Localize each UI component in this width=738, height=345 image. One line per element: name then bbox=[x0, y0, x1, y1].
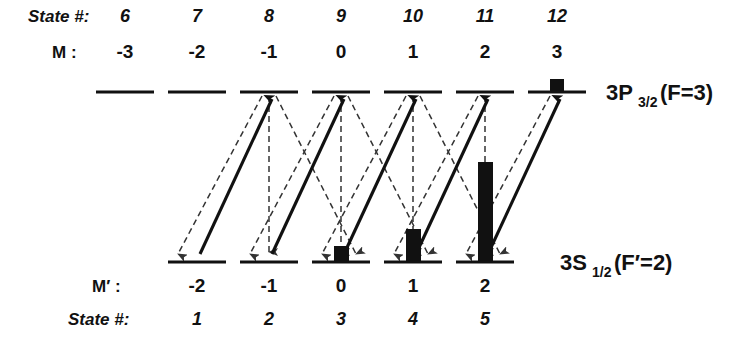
upper-term-subscript: 3/2 bbox=[638, 94, 658, 110]
bottom-state-row-label: State #: bbox=[68, 310, 129, 329]
pump-arrow-3-to-10 bbox=[344, 99, 416, 254]
m-prime-value-minus2: -2 bbox=[189, 275, 206, 296]
top-m-row-label: M : bbox=[52, 43, 77, 62]
population-marker-state-12 bbox=[550, 79, 564, 92]
bottom-m-row: M′ : -2 -1 0 1 2 bbox=[92, 275, 490, 296]
lower-term-subscript: 1/2 bbox=[592, 264, 612, 280]
lower-term-main: 3S bbox=[560, 250, 587, 275]
population-bar-state-3 bbox=[334, 246, 349, 262]
m-value-minus2: -2 bbox=[189, 41, 206, 62]
bottom-m-row-label: M′ : bbox=[92, 277, 121, 296]
m-value-minus3: -3 bbox=[117, 41, 134, 62]
m-value-3: 3 bbox=[552, 41, 563, 62]
m-value-1: 1 bbox=[408, 41, 419, 62]
state-number-4: 4 bbox=[407, 309, 418, 329]
m-value-minus1: -1 bbox=[261, 41, 278, 62]
m-prime-value-minus1: -1 bbox=[261, 275, 278, 296]
lower-term-tail: (F′=2) bbox=[614, 250, 672, 275]
m-prime-value-2: 2 bbox=[480, 275, 491, 296]
m-value-2: 2 bbox=[480, 41, 491, 62]
top-state-number-row: State #: 6 7 8 9 10 11 12 bbox=[28, 6, 567, 26]
state-number-5: 5 bbox=[480, 309, 491, 329]
pump-arrow-5-to-12 bbox=[488, 99, 560, 254]
state-number-12: 12 bbox=[547, 6, 567, 26]
upper-term-symbol: 3P 3/2 (F=3) bbox=[606, 80, 713, 110]
population-bar-state-5 bbox=[478, 162, 493, 262]
lower-term-symbol: 3S 1/2 (F′=2) bbox=[560, 250, 672, 280]
state-number-6: 6 bbox=[120, 6, 131, 26]
upper-term-main: 3P bbox=[606, 80, 633, 105]
state-number-3: 3 bbox=[336, 309, 346, 329]
pump-arrow-1-to-8 bbox=[200, 99, 272, 254]
state-number-7: 7 bbox=[192, 6, 203, 26]
m-value-0: 0 bbox=[336, 41, 347, 62]
pump-arrow-4-to-11 bbox=[416, 99, 488, 254]
state-number-9: 9 bbox=[336, 6, 346, 26]
bottom-state-number-row: State #: 1 2 3 4 5 bbox=[68, 309, 491, 329]
energy-level-diagram: State #: 6 7 8 9 10 11 12 M : -3 -2 -1 0… bbox=[0, 0, 738, 345]
state-number-8: 8 bbox=[264, 6, 274, 26]
top-state-row-label: State #: bbox=[28, 7, 89, 26]
state-number-1: 1 bbox=[192, 309, 202, 329]
state-number-10: 10 bbox=[403, 6, 423, 26]
top-m-row: M : -3 -2 -1 0 1 2 3 bbox=[52, 41, 562, 62]
decay-arrow-8-to-3 bbox=[276, 96, 356, 254]
state-number-2: 2 bbox=[263, 309, 274, 329]
pump-arrow-2-to-9 bbox=[272, 99, 344, 254]
pump-arrow-group bbox=[200, 99, 560, 254]
population-bar-group bbox=[334, 79, 564, 262]
decay-arrow-group bbox=[178, 96, 550, 254]
diagram-canvas: State #: 6 7 8 9 10 11 12 M : -3 -2 -1 0… bbox=[0, 0, 738, 345]
upper-term-tail: (F=3) bbox=[660, 80, 713, 105]
decay-arrow-8-to-1 bbox=[178, 96, 262, 254]
m-prime-value-0: 0 bbox=[336, 275, 347, 296]
m-prime-value-1: 1 bbox=[408, 275, 419, 296]
state-number-11: 11 bbox=[476, 6, 495, 26]
population-bar-state-4 bbox=[406, 229, 421, 262]
